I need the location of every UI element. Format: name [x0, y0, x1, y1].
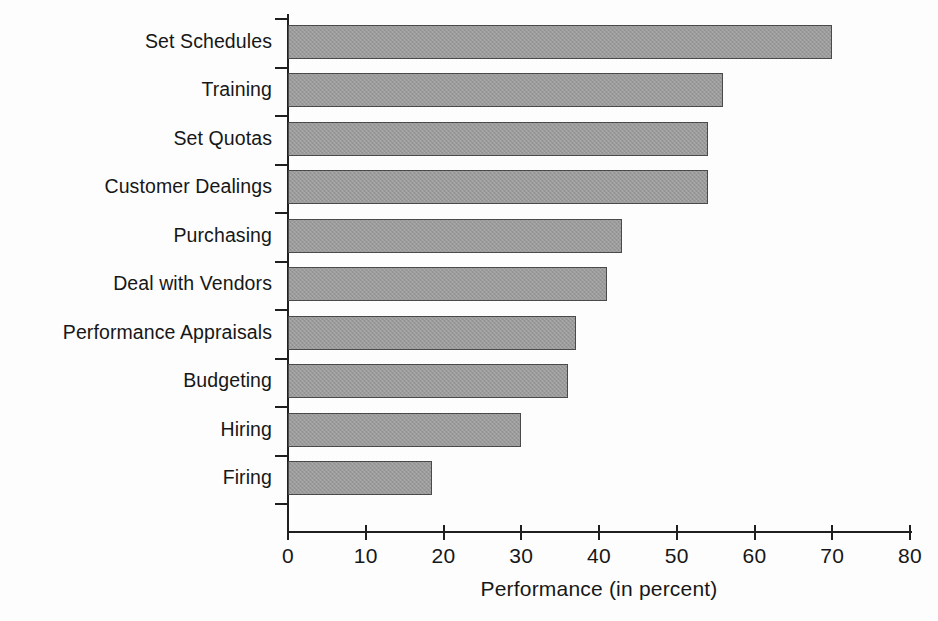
x-axis-tick-label: 40	[587, 545, 611, 566]
y-axis-tick	[275, 212, 288, 214]
category-label: Purchasing	[0, 226, 272, 246]
bar-row	[288, 413, 910, 447]
x-axis-tick	[365, 525, 367, 540]
x-axis-tick	[676, 525, 678, 540]
x-axis-tick	[598, 525, 600, 540]
bar-row	[288, 219, 910, 253]
x-axis-title: Performance (in percent)	[288, 578, 910, 599]
x-axis-tick	[520, 525, 522, 540]
category-label: Training	[0, 80, 272, 100]
x-axis-tick	[909, 525, 911, 540]
y-axis-tick	[275, 455, 288, 457]
category-label: Set Schedules	[0, 32, 272, 52]
y-axis-tick	[275, 18, 288, 20]
bar-row	[288, 170, 910, 204]
y-axis-tick	[275, 164, 288, 166]
bar-row	[288, 364, 910, 398]
bar-row	[288, 461, 910, 495]
y-axis-tick	[275, 309, 288, 311]
category-label: Deal with Vendors	[0, 274, 272, 294]
bar	[288, 316, 576, 350]
x-axis-tick-label: 0	[282, 545, 294, 566]
x-axis-tick	[754, 525, 756, 540]
category-label: Budgeting	[0, 371, 272, 391]
x-axis-tick-label: 30	[509, 545, 533, 566]
plot-area	[288, 18, 910, 513]
bar-chart: 01020304050607080 Performance (in percen…	[0, 0, 938, 621]
y-axis-tick	[275, 261, 288, 263]
y-axis-tick	[275, 406, 288, 408]
x-axis-tick-label: 20	[432, 545, 456, 566]
bar-row	[288, 73, 910, 107]
bar-row	[288, 25, 910, 59]
y-axis-tick	[275, 115, 288, 117]
bar	[288, 267, 607, 301]
x-axis-tick-label: 50	[665, 545, 689, 566]
category-label: Set Quotas	[0, 129, 272, 149]
x-axis-tick-label: 80	[898, 545, 922, 566]
x-axis-tick-label: 70	[820, 545, 844, 566]
bar-row	[288, 122, 910, 156]
x-axis-tick-label: 10	[354, 545, 378, 566]
bar	[288, 364, 568, 398]
category-label: Customer Dealings	[0, 177, 272, 197]
bar	[288, 122, 708, 156]
x-axis-tick	[443, 525, 445, 540]
y-axis-tick	[275, 67, 288, 69]
bar-row	[288, 267, 910, 301]
category-label: Performance Appraisals	[0, 323, 272, 343]
bar	[288, 170, 708, 204]
bar	[288, 219, 622, 253]
category-label: Firing	[0, 468, 272, 488]
y-axis-tick	[275, 358, 288, 360]
bar-row	[288, 316, 910, 350]
category-label: Hiring	[0, 420, 272, 440]
x-axis-tick-label: 60	[743, 545, 767, 566]
bar	[288, 461, 432, 495]
bar	[288, 413, 521, 447]
x-axis-tick	[287, 525, 289, 540]
bar	[288, 73, 723, 107]
bar	[288, 25, 832, 59]
x-axis-tick	[831, 525, 833, 540]
y-axis-tick	[275, 503, 288, 505]
